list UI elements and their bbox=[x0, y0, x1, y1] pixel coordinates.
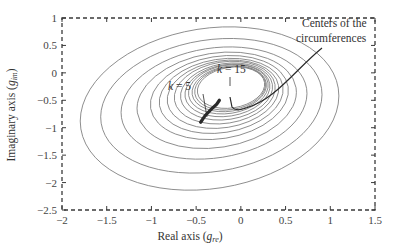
x-tick-label: 1.5 bbox=[368, 214, 382, 226]
chart: −2−1.5−1−0.500.511.5 10.50−0.5−1−1.5−2−2… bbox=[0, 0, 396, 252]
annotation-centers-line2: circumferences bbox=[296, 32, 367, 44]
x-tick-label: 0 bbox=[238, 214, 244, 226]
x-tick-label: −1 bbox=[146, 214, 158, 226]
y-tick-label: −1.5 bbox=[37, 149, 57, 161]
contour-ellipse bbox=[130, 41, 303, 159]
y-tick-label: 0.5 bbox=[43, 39, 57, 51]
annotation-k15: k = 15 bbox=[217, 63, 246, 75]
y-tick-label: −1 bbox=[45, 122, 57, 134]
x-tick-label: −0.5 bbox=[186, 214, 206, 226]
annotation-centers-line1: Centers of the bbox=[302, 17, 367, 29]
y-tick-label: 0 bbox=[52, 67, 58, 79]
annotation-k5: k = 5 bbox=[168, 80, 191, 92]
x-tick-label: 0.5 bbox=[279, 214, 293, 226]
contour-ellipse bbox=[144, 46, 294, 149]
x-axis-ticks: −2−1.5−1−0.500.511.5 bbox=[56, 18, 382, 226]
x-tick-label: 1 bbox=[328, 214, 334, 226]
y-tick-label: −2 bbox=[45, 177, 57, 189]
y-axis-label: Imaginary axis (gim) bbox=[5, 68, 19, 161]
y-tick-label: −2.5 bbox=[37, 204, 57, 216]
x-tick-label: −2 bbox=[56, 214, 68, 226]
x-tick-label: −1.5 bbox=[97, 214, 117, 226]
x-axis-label: Real axis (gre) bbox=[157, 230, 222, 244]
y-tick-label: −0.5 bbox=[37, 94, 57, 106]
contour-ellipse bbox=[113, 34, 315, 172]
y-tick-label: 1 bbox=[52, 12, 58, 24]
